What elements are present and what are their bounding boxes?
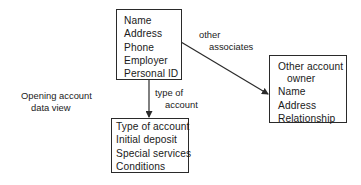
customer-field-address: Address <box>124 27 181 40</box>
other-owner-heading-cont: owner <box>278 73 346 85</box>
other-owner-entity-box: Other account owner Name Address Relatio… <box>269 55 347 123</box>
edge-label-other-line-2: associates <box>199 41 253 53</box>
customer-entity-box: Name Address Phone Employer Personal ID <box>116 9 182 80</box>
caption-line-2: data view <box>21 102 92 114</box>
diagram-caption: Opening account data view <box>21 90 92 113</box>
diagram-canvas: Name Address Phone Employer Personal ID … <box>0 0 361 185</box>
customer-field-personal-id: Personal ID <box>124 67 181 80</box>
customer-field-phone: Phone <box>124 41 181 54</box>
edge-label-type-of-line-1: type of <box>155 87 198 99</box>
customer-field-employer: Employer <box>124 54 181 67</box>
other-owner-field-address: Address <box>278 99 346 112</box>
other-owner-heading: Other account <box>278 60 346 73</box>
account-field-conditions: Conditions <box>116 160 188 173</box>
caption-line-1: Opening account <box>21 90 92 102</box>
edge-label-type-of-line-2: account <box>155 99 198 111</box>
customer-field-name: Name <box>124 14 181 27</box>
account-field-special-services: Special services <box>116 147 188 160</box>
edge-label-other-line-1: other <box>199 29 253 41</box>
account-field-type: Type of account <box>116 120 188 133</box>
other-owner-field-name: Name <box>278 85 346 98</box>
edge-label-type-of-account: type of account <box>155 87 198 110</box>
account-field-initial-deposit: Initial deposit <box>116 133 188 146</box>
edge-label-other-associates: other associates <box>199 29 253 52</box>
other-owner-field-relationship: Relationship <box>278 112 346 125</box>
account-entity-box: Type of account Initial deposit Special … <box>111 118 189 173</box>
